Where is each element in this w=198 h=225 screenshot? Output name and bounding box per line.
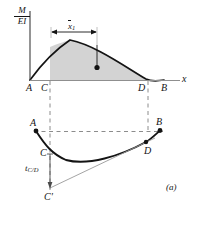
point-label-b-moment: B	[161, 83, 167, 93]
node-dot-b	[158, 128, 163, 133]
point-label-a-moment: A	[26, 83, 32, 93]
shaded-moment-area	[50, 40, 146, 80]
axis-label-numerator: M	[14, 6, 30, 15]
figure-moment-area-diagram: M EI x x1 A C D B A B C D C' tC/D (a)	[0, 0, 198, 225]
axis-label-m-over-ei: M EI	[14, 6, 30, 27]
node-dot-a	[34, 129, 39, 134]
tangential-deviation-label: tC/D	[25, 163, 38, 173]
axis-label-x: x	[182, 74, 186, 84]
node-dot-d	[144, 140, 148, 144]
point-label-a-deflection: A	[30, 118, 36, 128]
figure-label-a: (a)	[166, 182, 177, 192]
point-label-c-moment: C	[41, 83, 48, 93]
point-label-d-deflection: D	[144, 146, 151, 156]
deviation-arrow-head-icon	[48, 182, 53, 189]
point-label-b-deflection: B	[156, 117, 162, 127]
point-label-c-deflection: C	[40, 148, 47, 158]
point-label-c-prime: C'	[44, 192, 53, 202]
dimension-arrow-right-icon	[91, 30, 97, 35]
dimension-label-xbar: x1	[68, 21, 75, 31]
dimension-arrow-left-icon	[51, 30, 57, 35]
axis-label-denominator: EI	[14, 17, 30, 26]
elastic-deflection-curve	[36, 131, 160, 162]
centroid-dot-icon	[94, 65, 99, 70]
dimension-subscript: 1	[72, 24, 75, 31]
dimension-symbol: x	[68, 21, 72, 31]
deviation-subscript: C/D	[28, 166, 39, 173]
point-label-d-moment: D	[138, 83, 145, 93]
tangent-line-at-d	[50, 138, 155, 188]
